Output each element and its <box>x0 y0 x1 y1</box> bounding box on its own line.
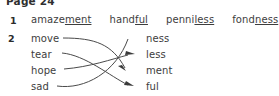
word-handful: handful <box>109 14 148 25</box>
exercise-1-word-list: amazementhandfulpennilessfondness <box>31 14 277 28</box>
link-move-ment <box>63 38 125 68</box>
link-tear-ful <box>62 53 128 85</box>
right-item-ness[interactable]: ness <box>146 31 216 47</box>
right-item-ment[interactable]: ment <box>146 63 216 79</box>
left-item-hope[interactable]: hope <box>31 63 71 79</box>
worksheet-page: Page 24 1 amazementhandfulpennilessfondn… <box>0 0 279 96</box>
word-amazement: amazement <box>31 14 91 25</box>
exercise-2-right-column: ness less ment ful <box>146 31 216 95</box>
exercise-2-number: 2 <box>8 33 15 44</box>
word-penniless: penniless <box>166 14 214 25</box>
right-item-ful[interactable]: ful <box>146 79 216 95</box>
arrowhead-ful <box>124 81 134 86</box>
exercise-2-left-column: move tear hope sad <box>31 31 71 95</box>
page-header: Page 24 <box>6 0 55 7</box>
left-item-tear[interactable]: tear <box>31 47 71 63</box>
right-item-less[interactable]: less <box>146 47 216 63</box>
left-item-sad[interactable]: sad <box>31 79 71 95</box>
link-hope-less <box>64 55 128 69</box>
exercise-1-number: 1 <box>10 15 17 26</box>
arrowhead-ment <box>118 65 126 71</box>
left-item-move[interactable]: move <box>31 31 71 47</box>
arrowhead-less <box>125 51 135 55</box>
arrowhead-ness <box>125 36 131 44</box>
word-fondness: fondness <box>232 14 278 25</box>
